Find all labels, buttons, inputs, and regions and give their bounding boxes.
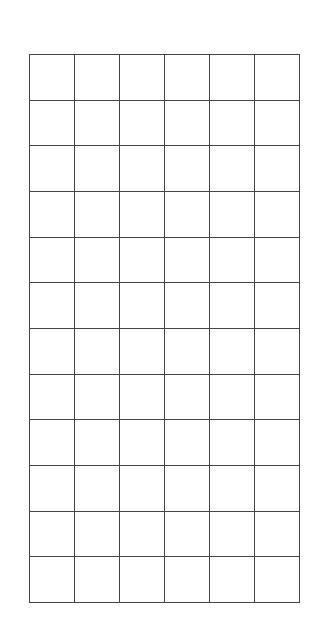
- grid-cell: [120, 55, 165, 101]
- grid-cell: [210, 512, 255, 558]
- grid-cell: [30, 192, 75, 238]
- grid-cell: [75, 55, 120, 101]
- grid-cell: [30, 238, 75, 284]
- grid-cell: [165, 329, 210, 375]
- grid-cell: [30, 146, 75, 192]
- grid-cell: [165, 101, 210, 147]
- grid-cell: [255, 238, 300, 284]
- grid-cell: [120, 557, 165, 603]
- grid-cell: [165, 146, 210, 192]
- grid-cell: [210, 466, 255, 512]
- grid-cell: [75, 420, 120, 466]
- grid-cell: [120, 146, 165, 192]
- grid-cell: [75, 238, 120, 284]
- grid-cell: [120, 238, 165, 284]
- empty-grid-table: [29, 54, 300, 603]
- grid-cell: [255, 283, 300, 329]
- grid-cell: [30, 101, 75, 147]
- grid-cell: [30, 512, 75, 558]
- grid-cell: [165, 55, 210, 101]
- grid-cell: [75, 375, 120, 421]
- grid-cell: [75, 512, 120, 558]
- grid-cell: [30, 466, 75, 512]
- grid-cell: [165, 466, 210, 512]
- grid-cell: [120, 329, 165, 375]
- grid-cell: [255, 375, 300, 421]
- grid-cell: [75, 329, 120, 375]
- grid-cell: [165, 283, 210, 329]
- grid-cell: [255, 146, 300, 192]
- grid-cell: [255, 512, 300, 558]
- grid-cell: [210, 55, 255, 101]
- grid-cell: [210, 375, 255, 421]
- grid-cell: [165, 375, 210, 421]
- grid-cell: [255, 557, 300, 603]
- grid-cell: [30, 375, 75, 421]
- grid-cell: [210, 101, 255, 147]
- grid-cell: [75, 146, 120, 192]
- grid-cell: [30, 329, 75, 375]
- grid-cell: [75, 101, 120, 147]
- grid-cell: [210, 557, 255, 603]
- grid-cell: [75, 466, 120, 512]
- grid-cell: [210, 146, 255, 192]
- grid-cell: [30, 283, 75, 329]
- grid-cell: [255, 55, 300, 101]
- grid-cell: [120, 512, 165, 558]
- grid-cell: [210, 192, 255, 238]
- grid-cell: [210, 329, 255, 375]
- grid-cell: [75, 192, 120, 238]
- grid-cell: [120, 375, 165, 421]
- grid-cell: [120, 101, 165, 147]
- grid-cell: [165, 192, 210, 238]
- grid-cell: [165, 238, 210, 284]
- grid-cell: [120, 192, 165, 238]
- grid-cell: [165, 557, 210, 603]
- grid-cell: [120, 420, 165, 466]
- grid-cell: [120, 466, 165, 512]
- grid-cell: [255, 329, 300, 375]
- grid-cell: [30, 557, 75, 603]
- grid-cell: [255, 420, 300, 466]
- page-canvas: [0, 0, 317, 630]
- grid-cell: [210, 420, 255, 466]
- grid-cell: [30, 420, 75, 466]
- grid-cell: [75, 283, 120, 329]
- grid-cell: [165, 512, 210, 558]
- grid-cell: [255, 192, 300, 238]
- grid-cell: [210, 283, 255, 329]
- grid-cell: [30, 55, 75, 101]
- grid-cell: [255, 466, 300, 512]
- grid-cell: [75, 557, 120, 603]
- grid-cell: [210, 238, 255, 284]
- grid-cell: [255, 101, 300, 147]
- grid-cell: [165, 420, 210, 466]
- grid-cell: [120, 283, 165, 329]
